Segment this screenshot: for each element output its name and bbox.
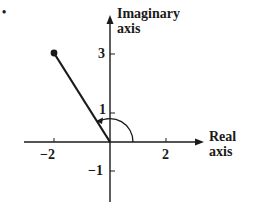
imaginary-axis-title: Imaginary axis: [117, 6, 180, 36]
tick-label-y-pos1: 1: [99, 103, 106, 117]
real-axis-arrow-icon: [195, 139, 204, 146]
tick-label-x-neg2: −2: [40, 148, 55, 162]
tick-label-y-neg1: −1: [88, 164, 103, 178]
corner-mark: •: [2, 6, 6, 18]
complex-point: [51, 50, 58, 57]
imaginary-axis-title-line1: Imaginary: [117, 6, 180, 21]
real-axis-title-line2: axis: [209, 144, 236, 159]
tick-label-x-pos2: 2: [162, 148, 169, 162]
imaginary-axis-arrow-icon: [107, 15, 114, 24]
real-axis: [24, 138, 204, 146]
vector-segment: [54, 53, 110, 142]
real-axis-title: Real axis: [209, 129, 236, 159]
tick-label-y-pos3: 3: [98, 47, 105, 61]
real-axis-title-line1: Real: [209, 129, 236, 144]
imaginary-axis-title-line2: axis: [117, 21, 180, 36]
imaginary-axis: [107, 15, 116, 202]
